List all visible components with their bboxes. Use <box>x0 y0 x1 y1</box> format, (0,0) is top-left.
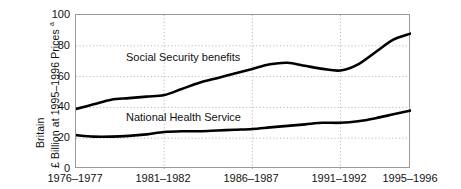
x-tick-1991-1992: 1991–1992 <box>311 171 366 185</box>
y-tick-100: 100 <box>44 9 70 20</box>
plot-svg <box>76 15 411 169</box>
x-tick-1995-1996: 1995–1996 <box>382 171 437 185</box>
x-tick-1976-1977: 1976–1977 <box>47 171 102 185</box>
y-tick-60: 60 <box>44 71 70 82</box>
x-tick-1981-1982: 1981–1982 <box>135 171 190 185</box>
y-tick-20: 20 <box>44 132 70 143</box>
gridlines <box>76 15 411 169</box>
series-label-national-health-service: National Health Service <box>126 112 241 123</box>
series-label-social-security: Social Security benefits <box>126 52 240 63</box>
line-chart: Britain £ Billion at 1995–1996 Prices a … <box>0 0 461 189</box>
x-axis-tick-labels: 1976–1977 1981–1982 1986–1987 1991–1992 … <box>0 171 461 189</box>
y-tick-80: 80 <box>44 40 70 51</box>
x-tick-1986-1987: 1986–1987 <box>223 171 278 185</box>
y-axis-tick-labels: 100 80 60 40 20 0 <box>44 0 70 189</box>
series-line-social-security-benefits <box>76 33 411 108</box>
y-axis-title: Britain £ Billion at 1995–1996 Prices a <box>0 0 50 175</box>
y-tick-40: 40 <box>44 101 70 112</box>
plot-area <box>75 14 410 168</box>
